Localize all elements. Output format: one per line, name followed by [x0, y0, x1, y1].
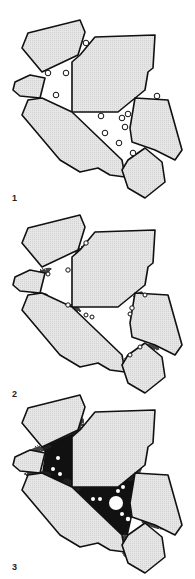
- bubble: [116, 140, 122, 146]
- panel-label-1: 1: [12, 194, 17, 203]
- grain-bottom-right: [122, 343, 165, 393]
- grain-small-left: [13, 270, 45, 293]
- bubble: [83, 40, 89, 46]
- bubble: [63, 70, 69, 76]
- bubble: [119, 115, 125, 121]
- grains: [13, 395, 182, 573]
- grain-cementation-diagram: [0, 0, 195, 579]
- grain-right: [130, 293, 182, 355]
- panel-2: [13, 215, 182, 393]
- bubble: [98, 113, 104, 119]
- grain-right: [130, 473, 182, 535]
- panel-label-3: 3: [12, 563, 17, 572]
- grain-small-left: [13, 75, 45, 98]
- bubble: [130, 150, 136, 156]
- bubble: [45, 70, 51, 76]
- grains: [13, 215, 182, 393]
- large-pore-bubble: [109, 496, 123, 510]
- panel-label-2: 2: [12, 390, 17, 399]
- panel-1: [13, 20, 182, 198]
- bubble: [53, 92, 59, 98]
- grain-bottom-right: [122, 148, 165, 198]
- grains: [13, 20, 182, 198]
- bubble: [125, 111, 131, 117]
- grain-small-left: [13, 450, 45, 473]
- bubble: [122, 124, 128, 130]
- panel-3: [13, 395, 182, 573]
- grain-right: [130, 98, 182, 160]
- bubble: [154, 93, 160, 99]
- bubble: [102, 130, 108, 136]
